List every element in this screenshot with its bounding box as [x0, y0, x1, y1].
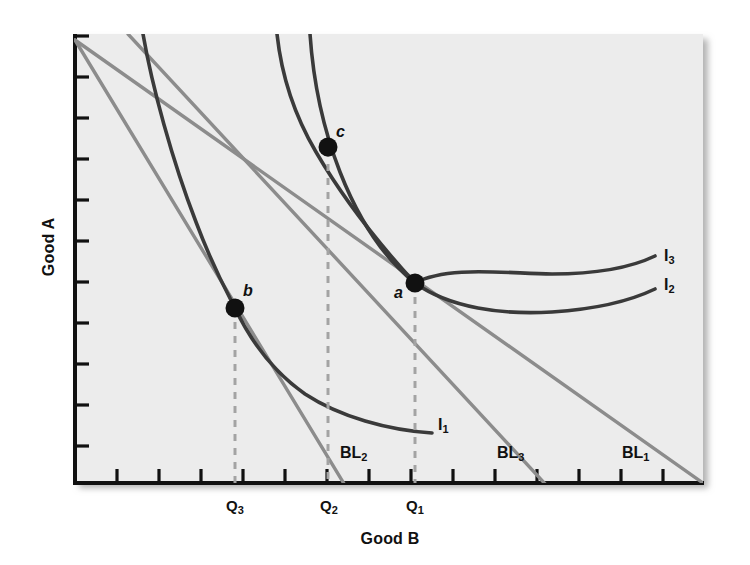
budget-line-label-bl2: BL2 — [340, 444, 367, 462]
x-tick-label-q1-base: Q — [406, 497, 418, 514]
budget-line-label-bl3-sub: 3 — [518, 451, 524, 463]
point-label-c: c — [336, 123, 345, 141]
point-marker-c — [319, 138, 338, 157]
curve-label-i2-sub: 2 — [668, 283, 674, 295]
x-tick-label-q1: Q1 — [406, 497, 424, 514]
chart-canvas — [0, 0, 750, 565]
x-tick-label-q2-base: Q — [320, 497, 332, 514]
budget-line-label-bl2-sub: 2 — [361, 451, 367, 463]
curve-label-i1: I1 — [438, 416, 449, 434]
point-label-a: a — [394, 284, 403, 302]
curve-label-i3-sub: 3 — [668, 254, 674, 266]
curve-label-i2: I2 — [664, 276, 675, 294]
point-marker-b — [226, 299, 245, 318]
curve-label-i3: I3 — [664, 247, 675, 265]
budget-line-label-bl1-sub: 1 — [643, 451, 649, 463]
point-marker-a — [406, 274, 425, 293]
budget-line-label-bl3-base: BL — [497, 444, 518, 461]
budget-line-label-bl3: BL3 — [497, 444, 524, 462]
x-tick-label-q3-base: Q — [226, 497, 238, 514]
x-tick-label-q3-sub: 3 — [238, 504, 244, 516]
y-axis-title: Good A — [40, 212, 58, 282]
x-tick-label-q3: Q3 — [226, 497, 244, 514]
point-label-b: b — [243, 282, 253, 300]
x-tick-label-q1-sub: 1 — [418, 504, 424, 516]
budget-line-label-bl2-base: BL — [340, 444, 361, 461]
x-tick-label-q2: Q2 — [320, 497, 338, 514]
indifference-curve-figure: Good A Good B I1 I2 I3 BL2 BL3 BL1 Q3 Q2… — [0, 0, 750, 565]
x-axis-title: Good B — [330, 530, 450, 548]
budget-line-label-bl1: BL1 — [622, 444, 649, 462]
x-tick-label-q2-sub: 2 — [332, 504, 338, 516]
curve-label-i1-sub: 1 — [442, 423, 448, 435]
budget-line-label-bl1-base: BL — [622, 444, 643, 461]
